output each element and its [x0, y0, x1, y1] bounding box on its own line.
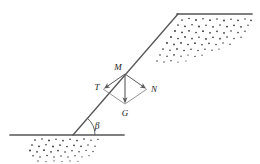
label-point-m: M: [113, 62, 122, 72]
figure-container: M T N G β: [0, 0, 260, 164]
upper-soil-fill: [156, 18, 252, 63]
label-angle-beta: β: [94, 121, 100, 131]
parallelogram-edge-g-n: [125, 89, 147, 104]
slope-diagram-svg: M T N G β: [0, 0, 260, 164]
label-vector-n: N: [150, 84, 158, 94]
vector-n-arrow: [125, 74, 146, 88]
lower-soil-fill: [29, 138, 99, 162]
label-vector-g: G: [122, 108, 129, 118]
label-vector-t: T: [94, 82, 100, 92]
